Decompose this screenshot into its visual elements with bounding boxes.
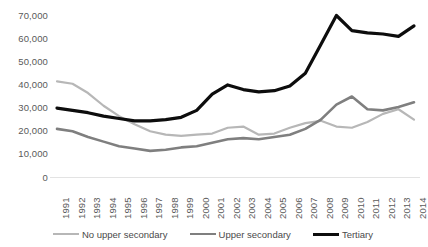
x-axis-tick-label: 1991 (61, 197, 71, 219)
legend-label: No upper secondary (82, 229, 168, 240)
x-axis-tick-label: 2005 (278, 197, 288, 219)
x-axis-tick-label: 2009 (340, 197, 350, 219)
x-axis-tick-label: 2013 (402, 197, 412, 219)
x-axis-tick-label: 2012 (387, 197, 397, 219)
x-axis-tick-label: 1993 (92, 197, 102, 219)
legend-color-swatch (313, 233, 339, 236)
x-axis-tick-label: 2014 (418, 197, 428, 219)
x-axis-tick-label: 1996 (139, 197, 149, 219)
x-axis-tick-label: 2007 (309, 197, 319, 219)
x-axis-tick-label: 1995 (123, 197, 133, 219)
x-axis-tick-label: 1992 (77, 197, 87, 219)
x-axis-tick-label: 2011 (371, 198, 381, 219)
legend-item[interactable]: Tertiary (313, 229, 373, 240)
x-axis-tick-label: 2004 (263, 197, 273, 219)
x-axis-tick-label: 2008 (325, 197, 335, 219)
x-axis-tick-label: 1997 (154, 197, 164, 219)
x-axis-tick-label: 2003 (247, 197, 257, 219)
x-axis-tick-label: 2001 (216, 197, 226, 219)
legend-label: Tertiary (342, 229, 373, 240)
x-axis-tick-label: 1998 (170, 197, 180, 219)
chart-legend: No upper secondaryUpper secondaryTertiar… (0, 224, 426, 244)
x-axis-tick-label: 2000 (201, 197, 211, 219)
legend-label: Upper secondary (219, 229, 291, 240)
x-axis-tick-label: 1999 (185, 197, 195, 219)
x-axis-tick-label: 1994 (108, 197, 118, 219)
x-axis-tick-label: 2002 (232, 197, 242, 219)
legend-item[interactable]: Upper secondary (190, 229, 291, 240)
legend-item[interactable]: No upper secondary (53, 229, 168, 240)
legend-color-swatch (53, 233, 79, 235)
legend-color-swatch (190, 233, 216, 235)
x-axis-tick-label: 2006 (294, 197, 304, 219)
x-axis-tick-label: 2010 (356, 197, 366, 219)
